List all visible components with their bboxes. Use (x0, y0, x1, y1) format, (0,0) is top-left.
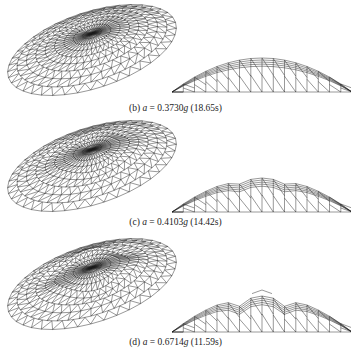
diagonal-member (140, 177, 151, 179)
elevation-arc (217, 70, 228, 73)
ring-member (58, 178, 64, 179)
diagonal-member (73, 86, 77, 93)
diagonal-member (147, 137, 157, 138)
diagonal-member (137, 256, 148, 257)
ring-member (38, 75, 45, 77)
diagonal-member (119, 239, 121, 240)
diagonal-member (108, 311, 117, 316)
dome-oblique-b (0, 0, 351, 118)
diagonal-member (148, 27, 158, 29)
diagonal-member (148, 258, 158, 261)
diagonal-member (122, 242, 123, 245)
ring-member (167, 276, 172, 283)
elevation-arc (262, 184, 273, 185)
diagonal-member (109, 148, 118, 149)
diagonal-member (117, 72, 120, 81)
diagonal-member (124, 269, 130, 274)
ring-member (45, 167, 46, 170)
ring-member (65, 46, 67, 48)
elevation-diagonal (262, 75, 273, 92)
elevation-arc (228, 68, 239, 70)
caption-label: (d) (129, 337, 140, 347)
ring-member (126, 251, 131, 253)
elevation-arc (183, 199, 194, 205)
ring-member (119, 141, 120, 143)
ring-member (117, 23, 119, 25)
ring-member (43, 258, 54, 264)
diagonal-member (96, 282, 97, 289)
ring-member (38, 191, 45, 193)
diagonal-member (120, 264, 128, 265)
ring-member (54, 176, 59, 178)
diagonal-member (66, 31, 70, 33)
elevation-diagonal (195, 324, 206, 332)
ring-member (8, 306, 9, 312)
elevation-arc (172, 206, 183, 212)
diagonal-member (111, 282, 113, 289)
ring-member (61, 312, 71, 313)
diagonal-member (46, 33, 50, 34)
ring-member (153, 6, 161, 9)
diagonal-member (103, 44, 104, 51)
diagonal-member (32, 41, 34, 44)
diagonal-member (134, 281, 144, 282)
elevation-diagonal (330, 324, 341, 332)
ring-member (31, 199, 39, 201)
diagonal-member (129, 27, 139, 29)
ring-member (138, 259, 139, 262)
elevation-diagonal (195, 85, 206, 92)
ring-member (104, 158, 108, 160)
elevation-diagonal (251, 75, 262, 92)
diagonal-member (165, 269, 175, 270)
diagonal-member (148, 262, 157, 266)
ring-member (150, 37, 154, 43)
ring-member (36, 293, 38, 296)
diagonal-member (120, 188, 130, 192)
diagonal-member (46, 150, 50, 151)
ring-member (154, 148, 157, 153)
panel-d: (d) a = 0.6714g (11.59s) (0, 236, 351, 357)
diagonal-member (58, 170, 63, 177)
diagonal-member (167, 146, 175, 151)
elevation-diagonal (318, 321, 329, 332)
diagonal-member (165, 270, 172, 276)
elevation-arc (217, 184, 228, 187)
diagonal-member (62, 33, 70, 34)
diagonal-member (70, 28, 75, 29)
elevation-arc (273, 59, 284, 61)
diagonal-member (120, 306, 130, 310)
caption-time: (14.42s) (190, 217, 221, 227)
diagonal-member (167, 25, 177, 29)
diagonal-member (100, 162, 103, 168)
diagonal-member (40, 273, 45, 274)
diagonal-member (53, 187, 62, 195)
diagonal-member (121, 298, 125, 304)
diagonal-member (92, 277, 94, 284)
ring-member (143, 239, 153, 241)
diagonal-member (150, 122, 153, 124)
diagonal-member (94, 291, 98, 296)
diagonal-member (39, 163, 46, 164)
ring-member (125, 157, 130, 161)
ring-member (17, 66, 18, 71)
elevation-arc (172, 326, 183, 332)
diagonal-member (52, 87, 53, 96)
elevation-diagonal (318, 202, 329, 212)
diagonal-member (65, 261, 68, 263)
ring-member (54, 61, 59, 62)
ring-member (151, 290, 160, 297)
elevation-arc (172, 86, 183, 92)
diagonal-member (66, 265, 73, 266)
elevation-arc (273, 305, 284, 313)
ring-member (160, 49, 167, 56)
ring-member (17, 182, 18, 187)
elevation-diagonal (307, 305, 318, 319)
diagonal-member (66, 148, 70, 150)
diagonal-member (148, 24, 158, 26)
diagonal-member (107, 130, 114, 133)
diagonal-member (26, 57, 36, 60)
diagonal-member (161, 158, 167, 165)
ring-member (134, 135, 137, 137)
ring-member (143, 121, 153, 123)
diagonal-member (87, 278, 90, 285)
